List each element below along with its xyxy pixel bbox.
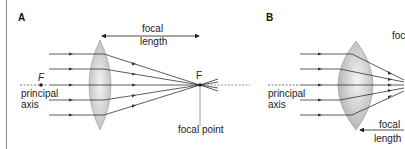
panel-a-diagram [20,36,250,130]
focal-point-label: focal point [178,124,224,135]
panel-b-diagram [268,41,404,130]
focal-length-label-a-line1: focal [142,23,163,34]
focal-length-label-a-line2: length [140,36,167,47]
panel-a-label: A [18,12,25,23]
principal-axis-label-b-line1: principal [268,88,305,99]
principal-axis-label-a-line1: principal [21,88,58,99]
focal-length-label-b-line1: focal [379,119,400,130]
focal-length-label-b-line2: length [374,133,401,144]
panel-b-label: B [266,12,273,23]
principal-axis-label-b-line2: axis [268,99,286,110]
focus-label-left-a: F [38,72,44,83]
focal-length-label-b-top: foc [392,30,405,41]
principal-axis-label-a-line2: axis [21,99,39,110]
focus-label-right-a: F [196,70,202,81]
